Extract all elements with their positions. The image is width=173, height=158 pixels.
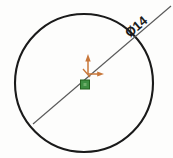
x-axis-arrowhead-icon	[97, 72, 104, 77]
origin-point-highlight	[84, 83, 87, 86]
y-axis-arrowhead-icon	[85, 54, 90, 62]
origin-x-axis-arrow	[88, 72, 104, 77]
diameter-dimension-label[interactable]: Ø14	[122, 12, 151, 40]
origin-y-axis-arrow	[85, 54, 90, 74]
cad-sketch-canvas[interactable]: Ø14	[0, 0, 173, 158]
sketch-svg-root: Ø14	[0, 0, 173, 158]
origin-axis-junction-tick	[83, 69, 90, 77]
